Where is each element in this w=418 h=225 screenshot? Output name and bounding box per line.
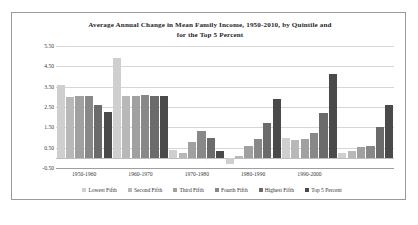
y-axis: 5.504.503.502.501.500.50-0.50 [26,46,54,168]
bar [254,139,262,158]
bar-group [338,46,394,168]
legend-item: Lowest Fifth [82,187,116,193]
legend-item: Highest Fifth [259,187,294,193]
bar [310,133,318,157]
x-tick-label: 1950-1960 [56,170,112,182]
bar [207,138,215,158]
bar [319,113,327,158]
bar [132,96,140,158]
bar [226,158,234,164]
bar [122,96,130,158]
bar [282,138,290,158]
gridline [56,168,394,169]
legend-item: Third Fifth [173,187,203,193]
chart-plot-wrapper: 5.504.503.502.501.500.50-0.50 1950-19601… [12,13,407,201]
legend-label: Lowest Fifth [89,187,117,193]
legend-item: Top 5 Percent [305,187,342,193]
bar-group [56,46,112,168]
bar [150,96,158,158]
bar [263,123,271,158]
bar [179,153,187,158]
chart-figure-frame: Average Annual Change in Mean Family Inc… [11,12,406,200]
legend-label: Third Fifth [179,187,203,193]
y-tick-label: -0.50 [26,165,54,171]
bar-group [281,46,337,168]
plot-area [56,46,394,168]
bar [338,153,346,158]
bar [348,151,356,158]
bar-groups [56,46,394,168]
y-tick-label: 1.50 [26,124,54,130]
bar [169,150,177,158]
bar [160,96,168,158]
bar [357,147,365,158]
legend-swatch-icon [305,188,309,192]
legend-item: Fourth Fifth [215,187,248,193]
bar [75,96,83,158]
legend-swatch-icon [215,188,219,192]
bar-group [225,46,281,168]
legend-label: Second Fifth [134,187,162,193]
bar [94,105,102,158]
bar [113,58,121,158]
x-tick-label: 1990-2000 [281,170,337,182]
bar [85,96,93,158]
legend-label: Fourth Fifth [221,187,248,193]
bar [141,95,149,158]
y-tick-label: 3.50 [26,84,54,90]
bar [376,127,384,158]
bar [366,146,374,158]
legend-item: Second Fifth [128,187,162,193]
bar [104,112,112,158]
bar [329,74,337,157]
x-tick-label [338,170,394,182]
bar-group [112,46,168,168]
x-tick-label: 1970-1980 [169,170,225,182]
y-tick-label: 0.50 [26,145,54,151]
bar [188,142,196,158]
legend-swatch-icon [259,188,263,192]
bar [301,139,309,158]
bar [273,99,281,158]
bar [291,140,299,158]
x-axis: 1950-19601960-19701970-19801980-19901990… [56,170,394,182]
legend-label: Highest Fifth [265,187,294,193]
chart-legend: Lowest FifthSecond FifthThird FifthFourt… [42,185,382,195]
bar [385,105,393,158]
x-tick-label: 1960-1970 [112,170,168,182]
y-tick-label: 2.50 [26,104,54,110]
bar [244,146,252,158]
bar [66,97,74,158]
bar [57,85,65,158]
bar-group [169,46,225,168]
legend-swatch-icon [128,188,132,192]
y-tick-label: 5.50 [26,43,54,49]
legend-swatch-icon [82,188,86,192]
legend-label: Top 5 Percent [311,187,341,193]
legend-swatch-icon [173,188,177,192]
bar [216,151,224,158]
x-tick-label: 1980-1990 [225,170,281,182]
bar [197,131,205,157]
y-tick-label: 4.50 [26,63,54,69]
bar [235,156,243,158]
